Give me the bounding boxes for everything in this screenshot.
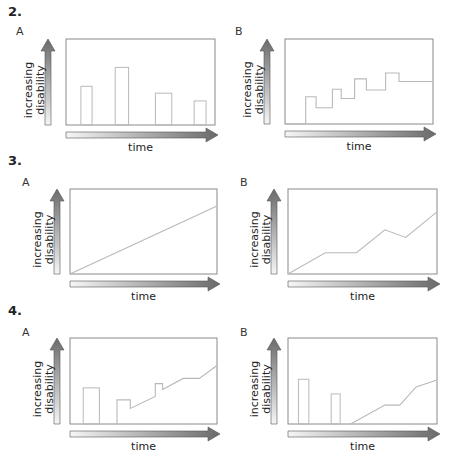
x-axis-arrow-icon — [288, 277, 440, 291]
x-axis-arrow-icon — [70, 427, 220, 441]
x-axis-arrow-icon — [288, 427, 440, 441]
plot-frame — [288, 338, 437, 424]
y-axis-label-line2: disability — [43, 364, 56, 414]
y-axis-label-line2: disability — [260, 214, 273, 264]
panel-2b: timeincreasingdisability — [241, 39, 436, 153]
x-axis-label: time — [128, 141, 153, 154]
y-axis-label-line2: disability — [253, 64, 266, 114]
panel-3a: timeincreasingdisability — [31, 189, 220, 303]
panel-2a: timeincreasingdisability — [22, 39, 218, 154]
x-axis-label: time — [131, 440, 156, 453]
y-axis-label-line2: disability — [260, 364, 273, 414]
x-axis-arrow-icon — [285, 127, 436, 141]
plot-frame — [70, 338, 217, 424]
figure-canvas: timeincreasingdisabilitytimeincreasingdi… — [0, 0, 451, 460]
y-axis-label-line2: disability — [43, 214, 56, 264]
x-axis-label: time — [350, 440, 375, 453]
plot-frame — [70, 189, 217, 274]
panel-4a: timeincreasingdisability — [31, 338, 220, 453]
x-axis-label: time — [131, 290, 156, 303]
y-axis-label-line2: disability — [34, 65, 47, 115]
x-axis-label: time — [350, 290, 375, 303]
panel-3b: timeincreasingdisability — [248, 189, 440, 303]
plot-frame — [66, 39, 215, 125]
x-axis-arrow-icon — [70, 277, 220, 291]
panel-4b: timeincreasingdisability — [248, 338, 440, 453]
x-axis-arrow-icon — [66, 128, 218, 142]
x-axis-label: time — [347, 140, 372, 153]
